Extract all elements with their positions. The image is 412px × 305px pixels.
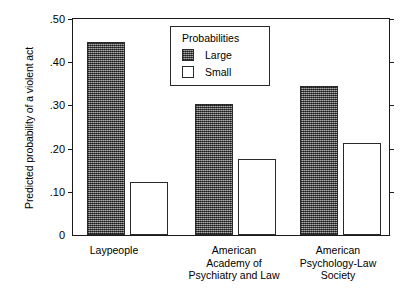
chart-figure: Predicted probability of a violent act .… <box>0 0 412 305</box>
legend: Probabilities Large Small <box>170 26 270 86</box>
bar-laypeople-large <box>87 42 125 235</box>
tick-mark-right <box>389 149 394 150</box>
y-tick-label: .10 <box>50 186 65 198</box>
tick-mark-left <box>68 105 73 106</box>
bar-apls-large <box>300 86 338 235</box>
tick-mark-left <box>68 149 73 150</box>
tick-mark-left <box>68 62 73 63</box>
legend-title: Probabilities <box>171 32 269 44</box>
tick-mark-left <box>68 192 73 193</box>
y-tick-label: .50 <box>50 13 65 25</box>
tick-mark-left <box>68 19 73 20</box>
tick-mark-right <box>389 19 394 20</box>
y-axis-title: Predicted probability of a violent act <box>23 13 35 243</box>
y-tick-label: .20 <box>50 143 65 155</box>
bar-apls-small <box>343 143 381 235</box>
tick-mark-right <box>389 105 394 106</box>
y-tick-label: .30 <box>50 99 65 111</box>
x-category-label-apls: American Psychology-Law Society <box>268 244 408 282</box>
legend-label-small: Small <box>205 66 231 78</box>
legend-swatch-small <box>182 66 194 78</box>
legend-label-large: Large <box>205 49 232 61</box>
y-tick-label: .40 <box>50 56 65 68</box>
bar-laypeople-small <box>130 182 168 235</box>
legend-swatch-large <box>182 49 194 61</box>
bar-aapl-small <box>238 159 276 235</box>
legend-item-small: Small <box>171 64 269 79</box>
x-category-label-laypeople: Laypeople <box>54 244 174 257</box>
legend-item-large: Large <box>171 47 269 62</box>
tick-mark-right <box>389 62 394 63</box>
y-tick-label: 0 <box>59 229 65 241</box>
tick-mark-right <box>389 192 394 193</box>
bar-aapl-large <box>195 104 233 235</box>
